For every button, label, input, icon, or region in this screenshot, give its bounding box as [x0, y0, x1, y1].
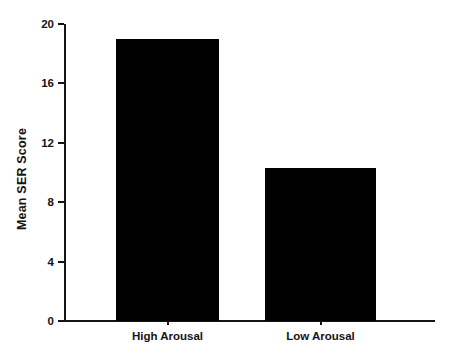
x-category-label: High Arousal	[132, 330, 203, 342]
y-tick-label: 16	[24, 77, 54, 89]
y-tick-mark	[58, 201, 64, 203]
y-tick-mark	[58, 261, 64, 263]
y-tick-label: 20	[24, 18, 54, 30]
y-tick-mark	[58, 23, 64, 25]
y-tick-label: 0	[24, 315, 54, 327]
x-tick-mark	[167, 321, 169, 325]
y-tick-label: 12	[24, 137, 54, 149]
y-tick-mark	[58, 82, 64, 84]
y-axis-title: Mean SER Score	[8, 0, 36, 357]
bar	[116, 39, 219, 321]
x-tick-mark	[320, 321, 322, 325]
y-axis-line	[64, 24, 66, 322]
y-tick-mark	[58, 320, 64, 322]
bar	[265, 168, 376, 321]
y-tick-mark	[58, 142, 64, 144]
x-category-label: Low Arousal	[286, 330, 355, 342]
y-tick-label: 4	[24, 256, 54, 268]
y-tick-label: 8	[24, 196, 54, 208]
bar-chart-figure: Mean SER Score 048121620 High ArousalLow…	[0, 0, 456, 357]
